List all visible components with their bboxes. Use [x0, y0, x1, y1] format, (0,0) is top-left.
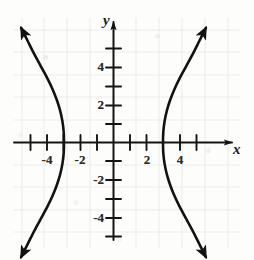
x-tick-label-neg2: -2: [75, 152, 86, 168]
x-tick-label-pos2: 2: [144, 152, 151, 168]
x-axis-label: x: [233, 141, 241, 158]
y-tick-label-pos2: 2: [86, 97, 104, 113]
y-tick-label-neg4: -4: [80, 210, 104, 226]
y-axis-label: y: [103, 12, 110, 29]
coordinate-plane: [0, 0, 254, 260]
y-tick-label-pos4: 4: [86, 59, 104, 75]
y-tick-label-neg2: -2: [80, 172, 104, 188]
background-grid: [14, 18, 240, 248]
x-tick-label-neg4: -4: [42, 152, 53, 168]
hyperbola-figure: y x -4 -2 2 4 4 2 -2 -4: [0, 0, 254, 260]
x-tick-label-pos4: 4: [177, 152, 184, 168]
